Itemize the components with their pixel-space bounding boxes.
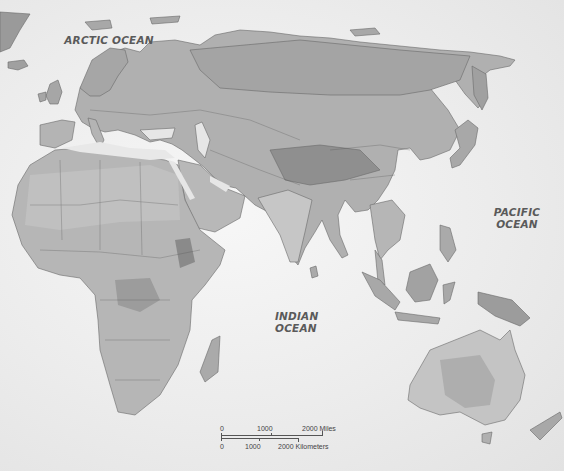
scale-miles-mid: 1000 (257, 425, 273, 432)
british-isles (46, 80, 62, 104)
indian-ocean-label: INDIAN OCEAN (275, 310, 335, 334)
siberia (190, 40, 470, 95)
sulawesi (443, 282, 455, 304)
severnaya (350, 28, 380, 36)
madagascar (200, 336, 220, 382)
java (395, 312, 440, 324)
pacific-line1: PACIFIC (482, 206, 552, 218)
pacific-ocean-label: PACIFIC OCEAN (482, 206, 552, 230)
iceland (8, 60, 28, 70)
scale-tick-miles-mid (271, 433, 272, 436)
scale-bar: 0 1000 2000 Miles 0 1000 2000 Kilometers (220, 425, 350, 455)
new-zealand (530, 412, 562, 440)
scale-miles-zero: 0 (220, 425, 224, 432)
scale-line-km (221, 438, 299, 439)
indian-line2: OCEAN (275, 322, 335, 334)
iberia (40, 120, 75, 148)
scale-km-end: 2000 Kilometers (278, 443, 329, 450)
pacific-line2: OCEAN (482, 218, 552, 230)
philippines (440, 225, 456, 262)
ireland (38, 92, 46, 102)
scale-tick-miles-end (322, 431, 323, 436)
greenland (0, 12, 30, 52)
scale-km-mid: 1000 (245, 443, 261, 450)
novaya-zemlya (150, 16, 180, 24)
sahara (25, 165, 180, 230)
borneo (406, 264, 438, 302)
scale-tick-km-mid (259, 438, 260, 441)
scale-tick-km-end (298, 438, 299, 442)
svalbard (85, 20, 112, 30)
world-map: ARCTIC OCEAN PACIFIC OCEAN INDIAN OCEAN … (0, 0, 564, 471)
indian-line1: INDIAN (275, 310, 335, 322)
scale-tick-start (221, 433, 222, 441)
arctic-ocean-label: ARCTIC OCEAN (54, 34, 164, 46)
new-guinea (478, 292, 530, 326)
scale-miles-end: 2000 Miles (302, 425, 336, 432)
tasmania (482, 432, 492, 444)
sri-lanka (310, 266, 318, 278)
scale-km-zero: 0 (220, 443, 224, 450)
scale-line-miles (221, 435, 323, 436)
landmasses (0, 0, 564, 471)
